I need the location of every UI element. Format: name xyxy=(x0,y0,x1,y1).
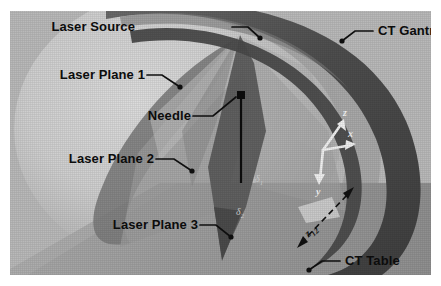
needle-head xyxy=(237,91,245,99)
leader-dot-laser-plane-2 xyxy=(189,168,194,173)
angle-label-delta2-sub: 2 xyxy=(241,212,245,220)
illustration-canvas: Laser Source CT Gantry Laser Plane 1 Nee… xyxy=(10,11,431,275)
leader-dot-ct-table xyxy=(306,267,311,272)
leader-dot-laser-plane-1 xyxy=(177,84,182,89)
angle-label-delta1: δ1 xyxy=(255,174,263,187)
callout-label-laser-plane-3: Laser Plane 3 xyxy=(113,218,198,231)
leader-dot-laser-plane-3 xyxy=(228,234,233,239)
leader-dot-laser-source xyxy=(257,35,262,40)
leader-dot-ct-gantry xyxy=(339,38,344,43)
callout-label-laser-source: Laser Source xyxy=(51,20,135,33)
callout-label-laser-plane-2: Laser Plane 2 xyxy=(69,152,154,165)
figure-root: Laser Source CT Gantry Laser Plane 1 Nee… xyxy=(0,0,441,286)
callout-label-ct-table: CT Table xyxy=(345,254,400,267)
callout-label-ct-gantry: CT Gantry xyxy=(378,24,431,37)
scene-svg xyxy=(10,11,431,275)
angle-label-delta1-sub: 1 xyxy=(260,179,264,187)
axis-label-z: z xyxy=(343,108,347,118)
callout-label-needle: Needle xyxy=(148,109,191,122)
angle-label-delta2: δ2 xyxy=(236,207,244,220)
callout-label-laser-plane-1: Laser Plane 1 xyxy=(60,68,145,81)
axis-label-y: y xyxy=(316,187,320,197)
axis-label-x: x xyxy=(348,129,353,139)
